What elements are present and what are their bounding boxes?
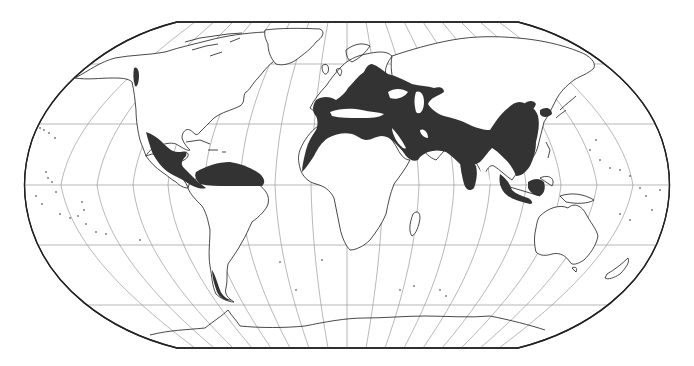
world-map [0, 0, 694, 366]
map-canvas [0, 0, 694, 366]
